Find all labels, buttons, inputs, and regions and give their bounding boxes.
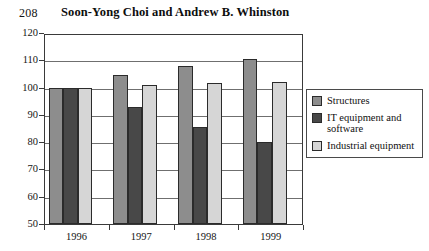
x-tick-end	[303, 225, 304, 230]
x-axis-label-1999: 1999	[238, 231, 303, 242]
running-title: Soon-Yong Choi and Andrew B. Whinston	[61, 5, 289, 20]
bar-1997-series-2	[128, 107, 143, 224]
running-head: 208 Soon-Yong Choi and Andrew B. Whinsto…	[0, 0, 429, 26]
x-axis-label-1998: 1998	[174, 231, 239, 242]
legend-item: Industrial equipment	[312, 140, 418, 152]
y-axis-label-50: 50	[12, 218, 38, 229]
x-tick-1997	[109, 225, 110, 230]
page-canvas: 208 Soon-Yong Choi and Andrew B. Whinsto…	[0, 0, 429, 251]
bar-1998-series-2	[193, 127, 208, 224]
legend-item: Structures	[312, 95, 418, 107]
bar-1996-series-3	[78, 88, 93, 224]
legend-swatch-it-equipment	[312, 113, 322, 123]
x-tick-1996	[44, 225, 45, 230]
bar-1999-series-1	[243, 59, 258, 224]
y-tick-120	[39, 33, 44, 34]
x-tick-1998	[174, 225, 175, 230]
bar-1999-series-2	[257, 142, 272, 224]
legend-label-industrial-equipment: Industrial equipment	[327, 140, 414, 152]
legend-swatch-industrial-equipment	[312, 141, 322, 151]
y-tick-90	[39, 115, 44, 116]
y-tick-60	[39, 197, 44, 198]
bar-groups	[45, 35, 302, 224]
y-axis-label-90: 90	[12, 109, 38, 120]
bar-group-1997	[110, 35, 175, 224]
bar-1996-series-2	[63, 88, 78, 224]
bar-group-1999	[239, 35, 304, 224]
bar-group-1996	[45, 35, 110, 224]
y-axis-label-70: 70	[12, 163, 38, 174]
legend-item: IT equipment and software	[312, 112, 418, 135]
chart-legend: Structures IT equipment and software Ind…	[306, 89, 423, 158]
bar-1998-series-1	[178, 66, 193, 224]
y-axis-label-100: 100	[12, 82, 38, 93]
y-tick-100	[39, 88, 44, 89]
bar-1999-series-3	[272, 82, 287, 224]
legend-swatch-structures	[312, 96, 322, 106]
bar-group-1998	[175, 35, 240, 224]
bar-1997-series-3	[142, 85, 157, 224]
y-axis-label-110: 110	[12, 54, 38, 65]
y-tick-70	[39, 169, 44, 170]
x-axis-label-1996: 1996	[44, 231, 109, 242]
bar-1997-series-1	[113, 75, 128, 224]
y-axis-label-120: 120	[12, 27, 38, 38]
plot-area	[44, 34, 303, 225]
x-tick-1999	[238, 225, 239, 230]
y-axis-label-60: 60	[12, 191, 38, 202]
page-number: 208	[19, 6, 38, 21]
x-axis-label-1997: 1997	[109, 231, 174, 242]
bar-1996-series-1	[49, 88, 64, 224]
legend-label-structures: Structures	[327, 95, 370, 107]
y-axis-label-80: 80	[12, 136, 38, 147]
bar-1998-series-3	[207, 83, 222, 224]
bar-chart-figure: 5060708090100110120 1996199719981999 Str…	[0, 26, 429, 251]
y-tick-110	[39, 60, 44, 61]
y-tick-80	[39, 142, 44, 143]
legend-label-it-equipment: IT equipment and software	[327, 112, 418, 135]
